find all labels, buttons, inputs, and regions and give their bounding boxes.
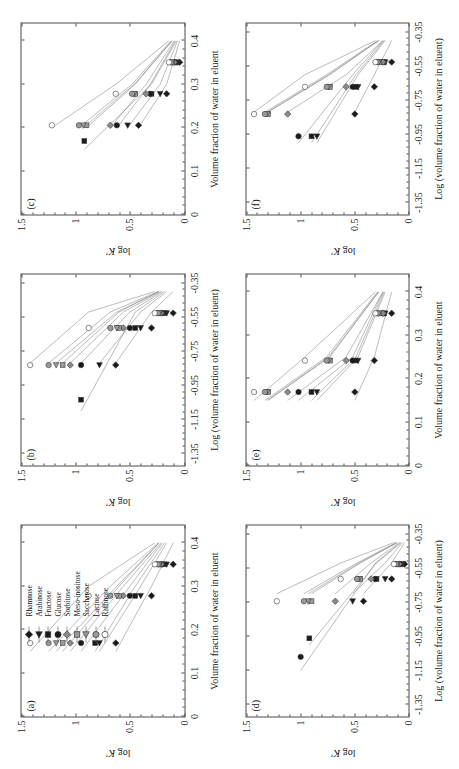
legend-item-label: Lactose (92, 593, 99, 617)
y-minor-tick (397, 463, 398, 465)
legend-item[interactable]: Saccharose (81, 571, 91, 643)
data-point (135, 122, 141, 128)
y-minor-tick (267, 463, 268, 465)
legend-item[interactable]: Fructose (43, 571, 53, 643)
x-minor-tick (406, 621, 408, 622)
y-tick-label: 1 (294, 218, 305, 223)
x-minor-tick (406, 403, 408, 404)
data-point (78, 362, 83, 367)
legend-item[interactable]: Rhamnose (24, 571, 34, 643)
legend-item-label: Meso-inositose (73, 571, 80, 617)
data-point (283, 388, 289, 394)
y-tick-label: 1.5 (16, 469, 27, 482)
x-minor-tick (406, 580, 408, 581)
y-minor-tick (376, 212, 377, 214)
x-tick-label: 0.4 (188, 536, 199, 549)
legend-marker-circle-icon (91, 617, 100, 643)
legend-item[interactable]: Meso-inositose (72, 571, 82, 643)
data-point (113, 91, 118, 96)
y-minor-tick (151, 463, 152, 465)
legend-item-label: Saccharose (82, 583, 89, 617)
y-minor-tick (386, 212, 387, 214)
x-tick-label: -0.75 (412, 591, 423, 612)
y-tick-mark (246, 211, 247, 214)
x-tick-mark (181, 672, 184, 673)
legend: RhamnoseArabinoseFructoseGlucoseSorbitos… (24, 571, 110, 643)
series-markers (21, 23, 184, 214)
plot-area: -1.35-1.15-0.95-0.75-0.55-0.3500.511.5 (245, 524, 410, 717)
x-tick-label: 0.1 (188, 666, 199, 679)
x-minor-tick (406, 112, 408, 113)
data-point (132, 325, 137, 330)
y-minor-tick (119, 714, 120, 716)
legend-item[interactable]: Lactose (91, 571, 101, 643)
x-minor-tick (182, 576, 184, 577)
x-minor-tick (406, 429, 408, 430)
x-minor-tick (182, 602, 184, 603)
x-minor-tick (406, 539, 408, 540)
x-minor-tick (182, 445, 184, 446)
legend-marker-circle-icon (53, 617, 62, 643)
y-tick-label: 1.5 (240, 469, 251, 482)
y-minor-tick (86, 212, 87, 214)
y-minor-tick (321, 463, 322, 465)
y-tick-mark (184, 211, 185, 214)
y-minor-tick (64, 463, 65, 465)
x-minor-tick (182, 152, 184, 153)
x-tick-mark (405, 421, 408, 422)
legend-item[interactable]: Raffinose (100, 571, 110, 643)
legend-item[interactable]: Sorbitose (62, 571, 72, 643)
x-tick-label: -1.15 (412, 660, 423, 681)
y-tick-mark (75, 23, 76, 26)
y-minor-tick (86, 463, 87, 465)
x-minor-tick (182, 689, 184, 690)
data-point (381, 576, 387, 581)
legend-item[interactable]: Arabinose (34, 571, 44, 643)
x-minor-tick (182, 620, 184, 621)
y-minor-tick (311, 212, 312, 214)
y-minor-tick (397, 212, 398, 214)
y-tick-mark (129, 713, 130, 716)
y-minor-tick (397, 714, 398, 716)
x-tick-mark (246, 669, 249, 670)
x-minor-tick (406, 187, 408, 188)
y-minor-tick (289, 714, 290, 716)
y-minor-tick (162, 714, 163, 716)
x-minor-tick (182, 109, 184, 110)
y-tick-mark (184, 23, 185, 26)
x-tick-mark (405, 167, 408, 168)
y-tick-mark (21, 274, 22, 277)
series-markers (21, 274, 184, 465)
x-tick-mark (21, 282, 24, 283)
x-tick-label: -1.35 (412, 192, 423, 213)
x-minor-tick (406, 44, 408, 45)
y-minor-tick (376, 714, 377, 716)
x-minor-tick (406, 642, 408, 643)
x-minor-tick (182, 377, 184, 378)
data-point (370, 83, 376, 89)
data-point (323, 357, 328, 362)
x-minor-tick (406, 395, 408, 396)
x-axis-label: Volume fraction of water in eluent (208, 524, 219, 717)
y-minor-tick (43, 463, 44, 465)
data-point (359, 597, 365, 603)
y-minor-tick (97, 212, 98, 214)
x-minor-tick (406, 153, 408, 154)
data-point (132, 593, 137, 598)
x-minor-tick (406, 147, 408, 148)
x-tick-mark (21, 384, 24, 385)
x-minor-tick (182, 178, 184, 179)
y-minor-tick (321, 714, 322, 716)
y-tick-mark (246, 462, 247, 465)
y-minor-tick (311, 714, 312, 716)
y-tick-mark (129, 462, 130, 465)
y-tick-mark (408, 211, 409, 214)
y-tick-mark (184, 274, 185, 277)
legend-item-label: Fructose (44, 591, 51, 617)
x-tick-mark (405, 669, 408, 670)
x-tick-mark (405, 65, 408, 66)
y-tick-label: 0 (178, 720, 189, 725)
legend-item[interactable]: Glucose (53, 571, 63, 643)
x-tick-mark (246, 290, 249, 291)
x-minor-tick (182, 48, 184, 49)
